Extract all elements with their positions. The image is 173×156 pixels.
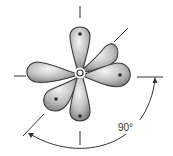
axis-upper-right [114,28,128,42]
angle-arc [30,79,155,148]
dot-bottom [78,114,82,118]
arrowhead-right [153,77,158,83]
angle-label: 90° [118,122,133,133]
nucleus-ring [77,70,83,76]
lobe-left [27,62,75,83]
axis-lower-left [23,114,44,136]
orbital-diagram: 90° [0,0,173,156]
dot-lower-left [54,97,58,101]
dot-right [118,73,122,77]
dot-top [78,32,82,36]
